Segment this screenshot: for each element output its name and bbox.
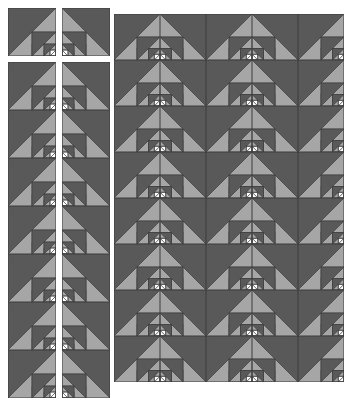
motif-tile xyxy=(114,60,160,106)
motif-tile xyxy=(8,8,56,56)
motif-tile xyxy=(298,198,344,244)
motif-tile xyxy=(298,60,344,106)
motif-tile xyxy=(8,254,56,302)
motif-tile xyxy=(114,244,160,290)
motif-tile xyxy=(298,290,344,336)
motif-tile xyxy=(206,60,252,106)
motif-tile xyxy=(298,152,344,198)
motif-tile xyxy=(114,290,160,336)
motif-tile xyxy=(8,206,56,254)
motif-tile xyxy=(8,302,56,350)
motif-tile xyxy=(114,106,160,152)
motif-tile xyxy=(114,198,160,244)
motif-tile xyxy=(160,244,206,290)
motif-tile xyxy=(8,110,56,158)
motif-tile xyxy=(62,350,110,398)
motif-tile xyxy=(114,152,160,198)
motif-tile xyxy=(160,60,206,106)
motif-tile xyxy=(160,198,206,244)
motif-tile xyxy=(252,14,298,60)
motif-tile xyxy=(114,14,160,60)
motif-tile xyxy=(160,336,206,382)
motif-tile xyxy=(160,14,206,60)
motif-tile xyxy=(252,106,298,152)
motif-tile xyxy=(252,198,298,244)
motif-tile xyxy=(62,8,110,56)
motif-tile xyxy=(206,290,252,336)
motif-tile xyxy=(160,106,206,152)
motif-tile xyxy=(62,254,110,302)
motif-tile xyxy=(8,158,56,206)
motif-tile xyxy=(252,244,298,290)
motif-tile xyxy=(206,336,252,382)
motif-tile xyxy=(252,336,298,382)
motif-tile xyxy=(206,152,252,198)
motif-tile xyxy=(206,244,252,290)
motif-tile xyxy=(298,14,344,60)
motif-tile xyxy=(62,158,110,206)
motif-tile xyxy=(160,152,206,198)
motif-tile xyxy=(62,206,110,254)
panel-top-left-pair xyxy=(8,8,110,56)
motif-tile xyxy=(62,110,110,158)
panel-left-column-one xyxy=(8,62,56,398)
motif-tile xyxy=(298,336,344,382)
tiling-canvas xyxy=(0,0,348,416)
motif-tile xyxy=(252,290,298,336)
motif-tile xyxy=(252,152,298,198)
motif-tile xyxy=(206,14,252,60)
motif-tile xyxy=(114,336,160,382)
motif-tile xyxy=(8,62,56,110)
motif-tile xyxy=(298,106,344,152)
motif-tile xyxy=(206,106,252,152)
motif-tile xyxy=(206,198,252,244)
panel-left-column-two xyxy=(62,62,110,398)
panel-main-grid xyxy=(114,14,344,382)
motif-tile xyxy=(160,290,206,336)
motif-tile xyxy=(8,350,56,398)
motif-tile xyxy=(298,244,344,290)
motif-tile xyxy=(252,60,298,106)
motif-tile xyxy=(62,62,110,110)
motif-tile xyxy=(62,302,110,350)
